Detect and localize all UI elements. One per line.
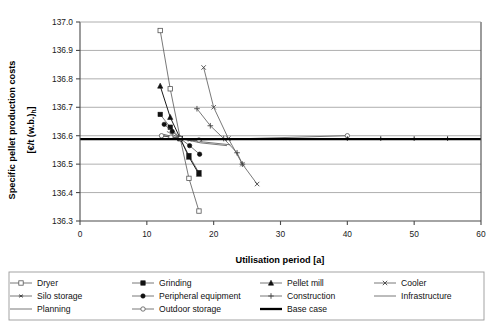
y-tick-label: 136.3 (52, 216, 73, 226)
x-axis-title: Utilisation period [a] (236, 255, 325, 265)
y-tick-label: 136.6 (52, 131, 73, 141)
data-point (158, 112, 162, 116)
legend-label: Cooler (401, 278, 426, 288)
data-point (170, 129, 174, 133)
x-tick-label: 50 (410, 229, 420, 239)
legend-label: Base case (287, 304, 327, 314)
data-point (158, 28, 162, 32)
legend-label: Peripheral equipment (159, 291, 241, 301)
legend-marker (141, 281, 145, 285)
y-axis-title-line2: [€/t (w.b.)h] (26, 106, 37, 153)
x-tick-label: 40 (343, 229, 353, 239)
chart-container: 136.3136.4136.5136.6136.7136.8136.9137.0… (0, 0, 493, 329)
legend-label: Construction (287, 291, 335, 301)
data-point (197, 152, 201, 156)
legend-label: Silo storage (37, 291, 83, 301)
legend-label: Grinding (159, 278, 192, 288)
x-tick-label: 60 (476, 229, 486, 239)
x-tick-label: 10 (142, 229, 152, 239)
y-tick-label: 137.0 (52, 17, 73, 27)
x-tick-label: 30 (276, 229, 286, 239)
data-point (162, 122, 166, 126)
x-tick-label: 0 (78, 229, 83, 239)
y-tick-label: 136.5 (52, 159, 73, 169)
y-tick-label: 136.8 (52, 74, 73, 84)
legend-label: Dryer (37, 278, 58, 288)
legend-marker (19, 281, 23, 285)
data-point (187, 176, 191, 180)
legend-label: Infrastructure (401, 291, 452, 301)
legend-label: Pellet mill (287, 278, 324, 288)
y-axis-title-line1: Specific pellet production costs (7, 61, 17, 200)
legend-label: Outdoor storage (159, 304, 221, 314)
y-tick-label: 136.9 (52, 45, 73, 55)
sensitivity-line-chart: 136.3136.4136.5136.6136.7136.8136.9137.0… (0, 0, 493, 329)
data-point (187, 143, 191, 147)
y-tick-label: 136.7 (52, 102, 73, 112)
data-point (197, 209, 201, 213)
data-point (159, 134, 163, 138)
y-tick-label: 136.4 (52, 188, 73, 198)
x-tick-label: 20 (209, 229, 219, 239)
legend-label: Planning (37, 304, 71, 314)
legend-marker (141, 294, 145, 298)
legend-marker (141, 307, 145, 311)
data-point (168, 87, 172, 91)
